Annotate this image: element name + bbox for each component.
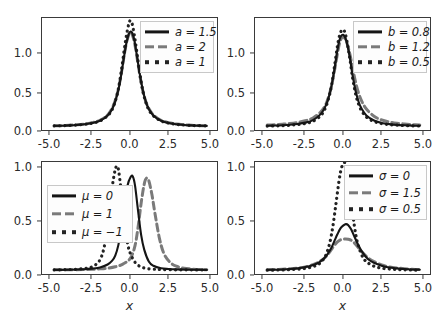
xtick-label--5: -5.0	[38, 137, 60, 151]
legend-line-dashed-icon	[145, 41, 169, 53]
xtick-mark	[342, 275, 343, 279]
xtick-mark	[48, 275, 49, 279]
xaxis-label: x	[126, 298, 133, 313]
legend-row[interactable]: a = 1.5	[145, 25, 208, 39]
xtick-label-25: 2.5	[159, 137, 177, 151]
xtick-label-5: 5.0	[201, 281, 219, 295]
legend-label: a = 1.5	[175, 25, 217, 39]
xtick-label--25: -2.5	[293, 281, 315, 295]
legend-line-solid-icon	[52, 190, 76, 202]
legend-label: σ = 1.5	[379, 186, 421, 200]
legend-line-dashed-icon	[358, 41, 382, 53]
ytick-label-0: 0.0	[14, 124, 32, 138]
xtick-mark	[342, 131, 343, 135]
figure-canvas: 1.0 0.5 0.0 -5.0 -2.5 0.0 2.5 5.0 a = 1.…	[0, 0, 446, 326]
ytick-mark	[37, 274, 41, 275]
xtick-label-0: 0.0	[333, 281, 351, 295]
xtick-label-25: 2.5	[372, 281, 390, 295]
legend-label: μ = −1	[82, 225, 123, 239]
xtick-label-5: 5.0	[414, 137, 432, 151]
xtick-mark	[422, 275, 423, 279]
ytick-label-0: 0.0	[14, 268, 32, 282]
legend-line-dashed-icon	[52, 208, 76, 220]
legend-label: a = 2	[175, 40, 206, 54]
xtick-mark	[303, 275, 304, 279]
legend-label: μ = 1	[82, 207, 113, 221]
xtick-label-0: 0.0	[120, 281, 138, 295]
xtick-label--5: -5.0	[251, 137, 273, 151]
xtick-mark	[90, 275, 91, 279]
legend-row[interactable]: σ = 0.5	[349, 202, 421, 216]
legend-line-solid-icon	[145, 26, 169, 38]
legend-line-solid-icon	[349, 170, 373, 182]
xtick-mark	[129, 275, 130, 279]
legend-row[interactable]: a = 2	[145, 40, 208, 54]
xtick-label--25: -2.5	[80, 281, 102, 295]
xtick-label-25: 2.5	[372, 137, 390, 151]
legend-row[interactable]: μ = 0	[52, 189, 127, 203]
legend-row[interactable]: b = 0.8	[358, 25, 421, 39]
ytick-mark	[250, 130, 254, 131]
ytick-mark	[250, 274, 254, 275]
xtick-label--5: -5.0	[251, 281, 273, 295]
xtick-label--25: -2.5	[293, 137, 315, 151]
xtick-mark	[422, 131, 423, 135]
panel-top-right: 1.0 0.5 0.0 -5.0 -2.5 0.0 2.5 5.0 b = 0.…	[254, 17, 431, 131]
ytick-mark	[250, 52, 254, 53]
legend-row[interactable]: μ = 1	[52, 207, 127, 221]
ytick-mark	[37, 166, 41, 167]
legend-label: b = 1.2	[388, 40, 430, 54]
ytick-mark	[250, 92, 254, 93]
ytick-label-05: 0.5	[227, 86, 245, 100]
ytick-label-05: 0.5	[227, 214, 245, 228]
ytick-label-05: 0.5	[14, 86, 32, 100]
series-line-dashed	[267, 239, 420, 270]
xtick-mark	[380, 131, 381, 135]
xtick-label-5: 5.0	[201, 137, 219, 151]
xtick-mark	[48, 131, 49, 135]
ytick-label-05: 0.5	[14, 214, 32, 228]
legend-top-right[interactable]: b = 0.8 b = 1.2 b = 0.5	[353, 21, 427, 73]
xtick-mark	[261, 131, 262, 135]
xtick-label--25: -2.5	[80, 137, 102, 151]
series-line-solid	[267, 224, 420, 270]
legend-line-dotted-icon	[358, 56, 382, 68]
xaxis-label: x	[339, 298, 346, 313]
xtick-mark	[90, 131, 91, 135]
xtick-mark	[167, 131, 168, 135]
xtick-mark	[303, 131, 304, 135]
panel-bottom-right: 1.0 0.5 0.0 -5.0 -2.5 0.0 2.5 5.0 x σ = …	[254, 161, 431, 275]
panel-top-left: 1.0 0.5 0.0 -5.0 -2.5 0.0 2.5 5.0 a = 1.…	[41, 17, 218, 131]
legend-row[interactable]: μ = −1	[52, 225, 127, 239]
legend-row[interactable]: a = 1	[145, 55, 208, 69]
xtick-label--5: -5.0	[38, 281, 60, 295]
legend-label: μ = 0	[82, 189, 113, 203]
panel-bottom-left: 1.0 0.5 0.0 -5.0 -2.5 0.0 2.5 5.0 x μ = …	[41, 161, 218, 275]
xtick-mark	[167, 275, 168, 279]
legend-line-dotted-icon	[145, 56, 169, 68]
ytick-mark	[37, 52, 41, 53]
legend-bottom-right[interactable]: σ = 0 σ = 1.5 σ = 0.5	[344, 165, 427, 220]
ytick-mark	[250, 220, 254, 221]
legend-row[interactable]: b = 0.5	[358, 55, 421, 69]
xtick-label-5: 5.0	[414, 281, 432, 295]
legend-row[interactable]: σ = 0	[349, 169, 421, 183]
ytick-mark	[37, 130, 41, 131]
legend-label: σ = 0	[379, 169, 410, 183]
legend-row[interactable]: b = 1.2	[358, 40, 421, 54]
legend-top-left[interactable]: a = 1.5 a = 2 a = 1	[140, 21, 214, 73]
legend-line-dotted-icon	[52, 226, 76, 238]
ytick-mark	[250, 166, 254, 167]
legend-line-dashed-icon	[349, 187, 373, 199]
xtick-label-25: 2.5	[159, 281, 177, 295]
ytick-label-1: 1.0	[227, 160, 245, 174]
ytick-mark	[37, 92, 41, 93]
xtick-mark	[209, 275, 210, 279]
xtick-mark	[209, 131, 210, 135]
xtick-mark	[261, 275, 262, 279]
legend-row[interactable]: σ = 1.5	[349, 186, 421, 200]
legend-label: σ = 0.5	[379, 202, 421, 216]
legend-bottom-left[interactable]: μ = 0 μ = 1 μ = −1	[47, 185, 133, 243]
xtick-mark	[129, 131, 130, 135]
legend-label: b = 0.5	[388, 55, 430, 69]
